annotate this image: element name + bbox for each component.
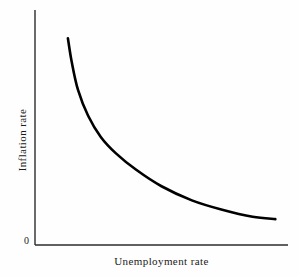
origin-tick-label: 0: [24, 235, 29, 246]
phillips-curve-line: [68, 38, 275, 219]
y-axis-label: Inflation rate: [16, 95, 28, 185]
chart-plot-area: [0, 0, 299, 277]
phillips-curve-figure: Inflation rate Unemployment rate 0: [0, 0, 299, 277]
x-axis-label: Unemployment rate: [35, 255, 288, 267]
